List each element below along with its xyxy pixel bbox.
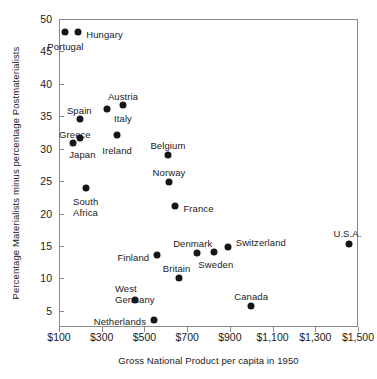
x-tick-label: $100 — [47, 331, 70, 343]
data-point-label: Netherlands — [94, 316, 146, 327]
data-point-label: France — [183, 203, 213, 214]
plot-area — [59, 19, 358, 327]
x-tick-mark — [102, 327, 103, 332]
data-point — [164, 152, 171, 159]
data-point-label: Austria — [108, 91, 138, 102]
data-point — [346, 241, 353, 248]
y-tick-label: 10 — [26, 272, 52, 284]
y-tick-mark — [59, 311, 64, 312]
data-point — [75, 28, 82, 35]
data-point — [77, 134, 84, 141]
data-point-label: Ireland — [102, 145, 132, 156]
data-point-label: U.S.A. — [333, 228, 361, 239]
data-point-label: Italy — [114, 113, 132, 124]
data-point-label: SouthAfrica — [73, 196, 98, 218]
x-tick-label: $900 — [218, 331, 241, 343]
x-tick-mark — [230, 327, 231, 332]
data-point — [62, 28, 69, 35]
y-tick-label: 35 — [26, 110, 52, 122]
data-point — [165, 179, 172, 186]
x-tick-mark — [144, 327, 145, 332]
data-point-label: Denmark — [173, 238, 212, 249]
data-point-label: Portugal — [47, 41, 83, 52]
y-tick-label: 15 — [26, 240, 52, 252]
x-tick-mark — [187, 327, 188, 332]
y-tick-label: 30 — [26, 143, 52, 155]
y-tick-mark — [59, 214, 64, 215]
data-point — [175, 274, 182, 281]
y-tick-label: 5 — [26, 305, 52, 317]
data-point — [104, 106, 111, 113]
y-tick-label: 50 — [26, 13, 52, 25]
data-point-label: WestGermany — [115, 283, 155, 305]
data-point-label: Spain — [67, 105, 92, 116]
data-point — [248, 302, 255, 309]
x-tick-label: $1,500 — [342, 331, 374, 343]
data-point — [114, 132, 121, 139]
data-point — [224, 243, 231, 250]
y-tick-label: 20 — [26, 208, 52, 220]
y-tick-mark — [59, 278, 64, 279]
x-tick-label: $1,300 — [299, 331, 331, 343]
y-tick-mark — [59, 149, 64, 150]
data-point — [154, 252, 161, 259]
data-point — [210, 248, 217, 255]
data-point — [151, 316, 158, 323]
x-tick-mark — [315, 327, 316, 332]
y-tick-mark — [59, 19, 64, 20]
y-tick-mark — [59, 181, 64, 182]
y-tick-mark — [59, 246, 64, 247]
x-tick-mark — [358, 327, 359, 332]
y-tick-label: 40 — [26, 78, 52, 90]
x-tick-label: $700 — [175, 331, 198, 343]
y-tick-mark — [59, 84, 64, 85]
data-point — [77, 115, 84, 122]
data-point-label: Sweden — [198, 259, 233, 270]
scatter-plot-figure: Percentage Materialists minus percentage… — [0, 0, 377, 379]
x-tick-label: $1,100 — [257, 331, 289, 343]
data-point-label: Hungary — [86, 29, 123, 40]
data-point-label: Canada — [234, 291, 268, 302]
x-axis-title: Gross National Product per capita in 195… — [59, 355, 358, 366]
x-tick-mark — [273, 327, 274, 332]
y-tick-label: 25 — [26, 175, 52, 187]
data-point — [82, 184, 89, 191]
x-tick-label: $500 — [133, 331, 156, 343]
data-point — [69, 139, 76, 146]
data-point — [172, 203, 179, 210]
data-point-label: Greece — [59, 129, 91, 140]
data-point-label: Britain — [163, 263, 191, 274]
data-point-label: Japan — [69, 149, 95, 160]
data-point-label: Finland — [117, 252, 149, 263]
y-axis-title: Percentage Materialists minus percentage… — [10, 19, 24, 327]
x-tick-label: $300 — [90, 331, 113, 343]
y-tick-mark — [59, 116, 64, 117]
data-point — [193, 250, 200, 257]
data-point — [120, 101, 127, 108]
data-point-label: Switzerland — [236, 237, 286, 248]
data-point-label: Belgium — [150, 140, 185, 151]
x-tick-mark — [59, 327, 60, 332]
data-point-label: Norway — [153, 167, 186, 178]
